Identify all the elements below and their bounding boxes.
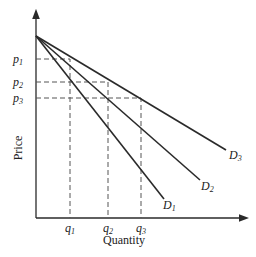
price-label-p3: p3 bbox=[12, 91, 23, 106]
price-label-p1: p1 bbox=[12, 52, 23, 67]
x-axis-title: Quantity bbox=[103, 233, 145, 247]
demand-label-d3: D3 bbox=[228, 148, 242, 163]
price-label-p2: p2 bbox=[12, 75, 23, 90]
guide-p2-q2 bbox=[36, 82, 108, 218]
demand-label-d2: D2 bbox=[200, 179, 214, 194]
demand-curve-d2 bbox=[36, 36, 200, 180]
guide-p3-q3 bbox=[36, 98, 141, 218]
demand-curve-d3 bbox=[36, 36, 226, 150]
y-axis-title: Price bbox=[11, 136, 25, 161]
guide-p1-q1 bbox=[36, 59, 70, 218]
demand-curve-d1 bbox=[36, 36, 164, 199]
demand-label-d1: D1 bbox=[162, 198, 176, 213]
quantity-label-q1: q1 bbox=[65, 221, 75, 236]
demand-diagram: p1 p2 p3 q1 q2 q3 D1 D2 D3 Quantity Pric… bbox=[0, 0, 256, 257]
demand-curves bbox=[36, 36, 226, 199]
